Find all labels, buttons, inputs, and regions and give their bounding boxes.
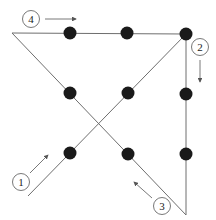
step-label-4: 4 [23, 11, 77, 28]
step-label-2: 2 [192, 39, 209, 83]
step-number: 3 [159, 200, 165, 212]
dot-3 [180, 28, 193, 41]
dot-2 [121, 27, 134, 40]
solution-line-1 [28, 34, 186, 196]
solution-line-4 [12, 33, 186, 34]
dot-5 [122, 87, 135, 100]
step-label-3: 3 [134, 182, 171, 215]
step-number: 2 [197, 41, 203, 53]
dot-6 [180, 88, 193, 101]
step-number: 1 [18, 176, 24, 188]
step-number: 4 [28, 13, 34, 25]
dot-7 [64, 147, 77, 160]
step-label-1: 1 [13, 155, 49, 191]
dot-1 [64, 27, 77, 40]
direction-arrow-icon [134, 182, 152, 198]
nine-dots-diagram: 1234 [0, 0, 216, 220]
dot-4 [64, 87, 77, 100]
dot-9 [180, 148, 193, 161]
solution-lines [12, 33, 186, 215]
dot-8 [122, 148, 135, 161]
direction-arrow-icon [30, 155, 48, 173]
